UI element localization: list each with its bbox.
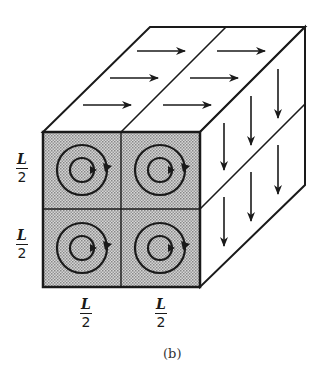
label-denominator: 2 xyxy=(18,170,27,184)
figure-caption: (b) xyxy=(163,346,181,361)
label-numerator: L xyxy=(156,297,166,311)
front-face xyxy=(43,132,200,287)
label-numerator: L xyxy=(17,228,27,242)
label-denominator: 2 xyxy=(82,315,91,329)
label-numerator: L xyxy=(81,297,91,311)
label-left-bottom: L 2 xyxy=(16,228,28,260)
label-denominator: 2 xyxy=(157,315,166,329)
label-denominator: 2 xyxy=(18,246,27,260)
label-bottom-right: L 2 xyxy=(155,297,167,329)
label-left-top: L 2 xyxy=(16,152,28,184)
label-numerator: L xyxy=(17,152,27,166)
label-bottom-left: L 2 xyxy=(80,297,92,329)
